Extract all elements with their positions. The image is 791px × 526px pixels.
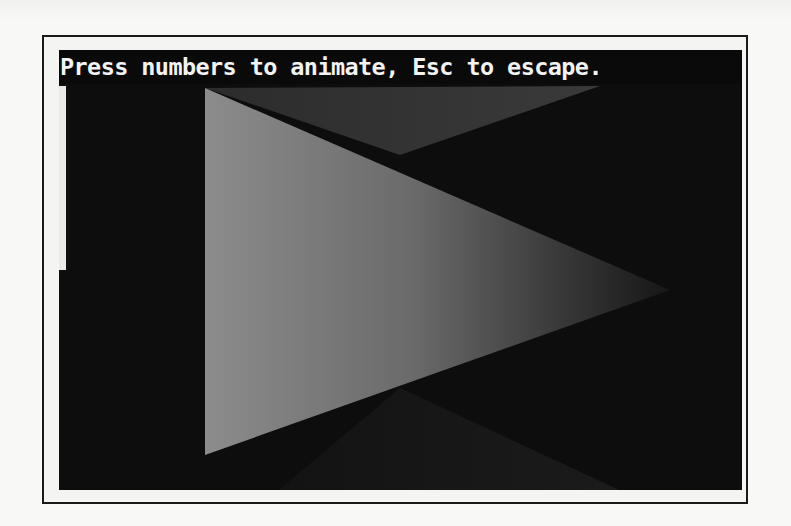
prompt-text: Press numbers to animate, Esc to escape.: [60, 53, 602, 81]
prompt-banner: Press numbers to animate, Esc to escape.: [59, 50, 742, 84]
program-screen[interactable]: Press numbers to animate, Esc to escape.: [59, 50, 742, 490]
page: Press numbers to animate, Esc to escape.: [0, 0, 791, 526]
side-bar-artifact: [59, 86, 66, 270]
animation-canvas: [59, 50, 742, 490]
